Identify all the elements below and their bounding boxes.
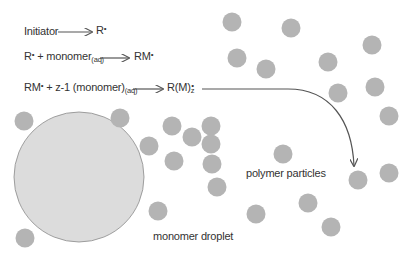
polymer-particle	[366, 78, 385, 97]
polymer-particle	[282, 19, 301, 38]
diagram-canvas	[0, 0, 413, 256]
emulsion-polymerization-diagram: Initiator R• R• + monomer(aq) RM• RM• + …	[0, 0, 413, 256]
polymer-particle	[329, 84, 348, 103]
polymer-particle	[149, 202, 168, 221]
polymer-particle	[228, 49, 247, 68]
equation-oligomer-product: R(M)z•	[167, 81, 194, 95]
polymer-particle	[257, 60, 276, 79]
polymer-particle	[16, 229, 35, 248]
monomer-droplet-circle	[14, 112, 144, 242]
equation-initiation: Initiator	[24, 25, 58, 37]
polymer-particle	[15, 112, 34, 131]
polymer-particle	[363, 36, 382, 55]
polymer-particle	[202, 135, 221, 154]
equation-propagation-aq: R• + monomer(aq)	[24, 50, 104, 64]
polymer-particle	[203, 155, 222, 174]
polymer-particle	[322, 218, 341, 237]
polymer-particle	[380, 164, 399, 183]
polymer-particle	[274, 145, 293, 164]
polymer-particle	[163, 117, 182, 136]
polymer-particle	[319, 53, 338, 72]
polymer-particle	[165, 152, 184, 171]
polymer-particle	[349, 171, 368, 190]
equation-initiation-product: R•	[96, 24, 106, 36]
polymer-particle	[247, 205, 266, 224]
polymer-particle	[111, 109, 130, 128]
polymer-particles-label: polymer particles	[246, 167, 326, 179]
monomer-droplet	[14, 112, 144, 242]
polymer-particle	[183, 128, 202, 147]
polymer-particle	[208, 178, 227, 197]
equation-oligomer-growth: RM• + z-1 (monomer)(aq)	[24, 81, 137, 95]
polymer-particle	[140, 137, 159, 156]
polymer-particle	[202, 117, 221, 136]
monomer-droplet-label: monomer droplet	[153, 230, 233, 242]
polymer-particle	[380, 107, 399, 126]
equation-propagation-aq-product: RM•	[134, 50, 153, 62]
polymer-particle	[299, 194, 318, 213]
polymer-particle	[223, 13, 242, 32]
